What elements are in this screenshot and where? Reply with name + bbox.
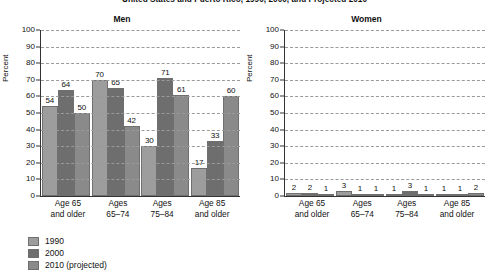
- bar-value-label: 70: [95, 71, 104, 79]
- gridline: [41, 113, 240, 114]
- bar-value-label: 71: [161, 69, 170, 77]
- x-axis-category-line: Ages: [106, 198, 129, 209]
- bar-rect: [418, 194, 434, 196]
- bar-value-label: 3: [342, 182, 346, 190]
- x-axis-category-label: Ages65–74: [351, 198, 374, 219]
- chart-title: United States and Puerto Rico, 1990, 200…: [0, 0, 489, 4]
- bar-value-label: 1: [458, 185, 462, 193]
- bar-rect: [402, 191, 418, 196]
- bar-rect: [352, 194, 368, 196]
- bar-rect: [318, 194, 334, 196]
- panel-women-plot-wrap: Percent 1009080706050403020100 221311131…: [246, 30, 487, 212]
- gridline: [285, 30, 485, 31]
- bar-value-label: 2: [308, 184, 312, 192]
- y-tick-label: 0: [31, 192, 35, 200]
- bar-value-label: 1: [392, 185, 396, 193]
- x-axis-category-line: Age 85: [440, 198, 475, 209]
- chart-legend: 199020002010 (projected): [28, 236, 107, 272]
- bar-rect: [452, 194, 468, 196]
- gridline: [285, 96, 485, 97]
- gridline: [41, 179, 240, 180]
- bar-rect: [386, 194, 402, 196]
- bar-rect: [368, 194, 384, 196]
- x-axis-category-label: Age 65and older: [295, 198, 330, 219]
- y-tick-label: 100: [22, 26, 35, 34]
- y-tick-label: 50: [26, 109, 35, 117]
- gridline: [285, 63, 485, 64]
- x-axis-category-line: 75–84: [151, 209, 174, 220]
- gridline: [41, 146, 240, 147]
- gridline: [41, 63, 240, 64]
- bar-value-label: 2: [292, 184, 296, 192]
- x-axis-labels-men: Age 65and olderAges65–74Ages75–84Age 85a…: [40, 198, 240, 219]
- legend-swatch: [28, 237, 39, 246]
- y-tick-label: 20: [270, 159, 279, 167]
- y-tick-label: 60: [270, 92, 279, 100]
- x-axis-category-label: Ages65–74: [106, 198, 129, 219]
- y-axis-label-men: Percent: [1, 54, 10, 82]
- x-axis-category-line: and older: [195, 209, 230, 220]
- x-axis-category-line: and older: [51, 209, 86, 220]
- x-axis-category-label: Age 85and older: [195, 198, 230, 219]
- gridline: [41, 47, 240, 48]
- bar-rect: [141, 146, 157, 196]
- legend-item[interactable]: 2010 (projected): [28, 260, 107, 271]
- bar-rect: [468, 193, 484, 196]
- bar-value-label: 2: [474, 184, 478, 192]
- bar-value-label: 60: [227, 87, 236, 95]
- legend-item[interactable]: 2000: [28, 248, 107, 259]
- y-tick-label: 40: [270, 126, 279, 134]
- y-tick-label: 0: [275, 192, 279, 200]
- legend-swatch: [28, 249, 39, 258]
- x-axis-category-line: 65–74: [351, 209, 374, 220]
- bar-value-label: 30: [145, 137, 154, 145]
- gridline: [41, 130, 240, 131]
- x-axis-category-line: Ages: [395, 198, 418, 209]
- gridline: [41, 30, 240, 31]
- legend-label: 2000: [45, 249, 64, 258]
- bar-rect: [286, 193, 302, 196]
- legend-label: 2010 (projected): [45, 261, 107, 270]
- y-tick-label: 40: [26, 126, 35, 134]
- y-tick-label: 90: [270, 43, 279, 51]
- x-axis-category-line: Ages: [151, 198, 174, 209]
- bar-value-label: 1: [358, 185, 362, 193]
- y-tick-label: 80: [270, 59, 279, 67]
- bar-rect: [336, 191, 352, 196]
- bar-value-label: 33: [211, 132, 220, 140]
- x-axis-category-line: Ages: [351, 198, 374, 209]
- bar-rect: [124, 126, 140, 196]
- x-axis-category-label: Age 65and older: [51, 198, 86, 219]
- y-axis-women: 1009080706050403020100: [260, 30, 284, 196]
- gridline: [285, 163, 485, 164]
- plot-area-men: 546450706542307161173360: [40, 30, 240, 197]
- y-tick-label: 20: [26, 159, 35, 167]
- bar-rect: [74, 113, 90, 196]
- legend-item[interactable]: 1990: [28, 236, 107, 247]
- legend-swatch: [28, 261, 39, 270]
- bar-rect: [42, 106, 58, 196]
- gridline: [285, 47, 485, 48]
- legend-label: 1990: [45, 237, 64, 246]
- x-axis-category-line: 75–84: [395, 209, 418, 220]
- x-axis-category-line: and older: [440, 209, 475, 220]
- x-axis-category-line: 65–74: [106, 209, 129, 220]
- x-axis-category-line: Age 65: [51, 198, 86, 209]
- x-axis-category-label: Age 85and older: [440, 198, 475, 219]
- gridline: [41, 96, 240, 97]
- panel-women-title: Women: [246, 14, 487, 24]
- bar-value-label: 1: [374, 185, 378, 193]
- y-tick-label: 30: [26, 142, 35, 150]
- x-axis-category-line: Age 65: [295, 198, 330, 209]
- y-axis-label-women: Percent: [245, 54, 254, 82]
- y-tick-label: 30: [270, 142, 279, 150]
- gridline: [285, 179, 485, 180]
- x-axis-category-line: and older: [295, 209, 330, 220]
- bar-value-label: 54: [45, 97, 54, 105]
- y-tick-label: 80: [26, 59, 35, 67]
- bar-value-label: 1: [424, 185, 428, 193]
- y-tick-label: 10: [270, 175, 279, 183]
- x-axis-labels-women: Age 65and olderAges65–74Ages75–84Age 85a…: [284, 198, 485, 219]
- panel-men-plot-wrap: Percent 1009080706050403020100 546450706…: [2, 30, 242, 212]
- bar-value-label: 1: [324, 185, 328, 193]
